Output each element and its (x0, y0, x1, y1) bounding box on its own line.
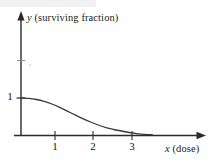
y-axis-label: y (surviving fraction) (27, 12, 118, 23)
x-axis-label-text: (dose) (170, 143, 200, 154)
survival-curve-figure: y (surviving fraction) x (dose) 1 1 2 3 (0, 0, 218, 165)
y-axis-label-text: (surviving fraction) (32, 12, 119, 23)
plot-canvas (0, 0, 218, 165)
x-tick-label-2: 2 (86, 140, 100, 152)
x-axis-arrowhead (197, 132, 207, 140)
x-tick-label-3: 3 (125, 140, 139, 152)
x-tick-label-1: 1 (48, 140, 62, 152)
survival-curve-path (21, 98, 152, 135)
y-tick-label-1: 1 (3, 90, 17, 102)
y-axis-arrowhead (17, 11, 24, 21)
x-axis-label: x (dose) (165, 143, 199, 154)
